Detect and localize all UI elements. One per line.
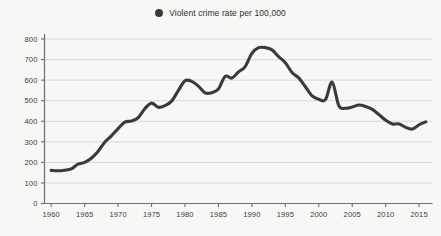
chart-plot-area: 0100200300400500600700800 19601965197019… — [0, 0, 441, 236]
y-axis-labels: 0100200300400500600700800 — [25, 35, 38, 209]
svg-text:1960: 1960 — [43, 210, 60, 219]
svg-text:1980: 1980 — [176, 210, 193, 219]
svg-text:2015: 2015 — [410, 210, 427, 219]
svg-text:1965: 1965 — [76, 210, 93, 219]
svg-text:700: 700 — [25, 55, 38, 64]
svg-text:400: 400 — [25, 117, 38, 126]
svg-text:2010: 2010 — [377, 210, 394, 219]
svg-text:2005: 2005 — [344, 210, 361, 219]
svg-text:1985: 1985 — [210, 210, 227, 219]
svg-text:2000: 2000 — [310, 210, 327, 219]
svg-text:1975: 1975 — [143, 210, 160, 219]
x-axis-labels: 1960196519701975198019851990199520002005… — [43, 210, 428, 219]
svg-text:800: 800 — [25, 35, 38, 44]
svg-text:100: 100 — [25, 179, 38, 188]
svg-text:1995: 1995 — [277, 210, 294, 219]
violent-crime-line-chart: Violent crime rate per 100,000 010020030… — [0, 0, 441, 236]
svg-text:300: 300 — [25, 138, 38, 147]
svg-text:600: 600 — [25, 76, 38, 85]
series-line-violent-crime-rate — [51, 47, 426, 171]
svg-text:1970: 1970 — [109, 210, 126, 219]
svg-text:1990: 1990 — [243, 210, 260, 219]
svg-text:200: 200 — [25, 158, 38, 167]
svg-text:500: 500 — [25, 96, 38, 105]
svg-text:0: 0 — [33, 199, 37, 208]
